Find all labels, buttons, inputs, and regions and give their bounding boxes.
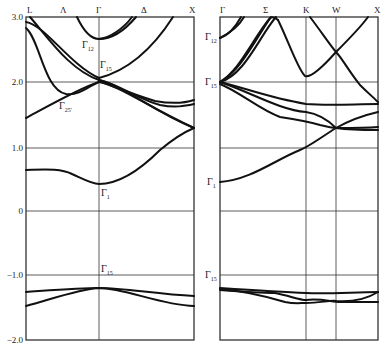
- kpoint-X: X: [189, 5, 196, 15]
- right-panel: Γ Σ K W X Γ12 Γ15 Γ1 Γ15: [205, 5, 381, 340]
- kpoint-K: K: [303, 5, 310, 15]
- band-structure-chart: 3.0 2.0 1.0 0 −1.0 −2.0 L Λ Γ Δ X: [0, 0, 392, 349]
- label-gamma25: Γ25': [59, 100, 72, 113]
- label-gamma1: Γ1: [101, 187, 110, 200]
- left-panel: 3.0 2.0 1.0 0 −1.0 −2.0 L Λ Γ Δ X: [7, 5, 196, 345]
- label-r-gamma1: Γ1: [207, 176, 216, 189]
- kpoint-W: W: [332, 5, 341, 15]
- y-tick-2: 2.0: [12, 77, 24, 87]
- label-r-gamma15-upper: Γ15: [205, 76, 217, 89]
- left-bands: [26, 17, 194, 306]
- y-tick-0: 0: [19, 206, 24, 216]
- kpoint-X-right: X: [374, 5, 381, 15]
- kpoint-L: L: [27, 5, 33, 15]
- y-tick-3: 3.0: [12, 12, 24, 22]
- kpoint-Delta: Δ: [141, 5, 147, 15]
- y-tick-1: 1.0: [12, 143, 24, 153]
- right-bands: [220, 17, 378, 303]
- y-tick-m1: −1.0: [7, 270, 24, 280]
- y-tick-m2: −2.0: [7, 335, 24, 345]
- kpoint-Sigma: Σ: [263, 5, 268, 15]
- label-r-gamma12: Γ12: [205, 31, 217, 44]
- label-gamma12: Γ12: [82, 39, 94, 52]
- kpoint-Gamma-right: Γ: [220, 5, 225, 15]
- kpoint-Lambda: Λ: [60, 5, 67, 15]
- label-gamma15-lower: Γ15: [101, 263, 113, 276]
- label-gamma15-upper: Γ15: [100, 59, 112, 72]
- kpoint-Gamma: Γ: [96, 5, 101, 15]
- label-r-gamma15-lower: Γ15: [205, 269, 217, 282]
